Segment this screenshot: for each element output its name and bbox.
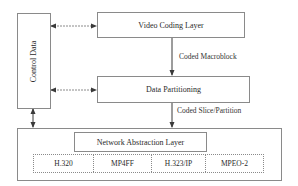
transport-mp4ff-label: MP4FF bbox=[111, 159, 134, 168]
coded-macroblock-label: Coded Macroblock bbox=[179, 52, 237, 61]
coded-slice-partition-label: Coded Slice/Partition bbox=[177, 106, 241, 115]
transport-mp4ff: MP4FF bbox=[93, 155, 151, 172]
network-abstraction-layer-box: Network Abstraction Layer bbox=[74, 132, 207, 152]
transport-mpeg2-label: MPEO-2 bbox=[221, 159, 248, 168]
transport-h323-ip: H.323/IP bbox=[151, 155, 205, 172]
control-data-box: Control Data bbox=[17, 13, 51, 109]
video-coding-layer-box: Video Coding Layer bbox=[97, 12, 245, 38]
transport-h320-label: H.320 bbox=[54, 159, 73, 168]
network-abstraction-layer-label: Network Abstraction Layer bbox=[97, 138, 185, 147]
transport-row: H.320 MP4FF H.323/IP MPEO-2 bbox=[33, 154, 264, 173]
control-data-label: Control Data bbox=[30, 40, 39, 82]
transport-h320: H.320 bbox=[34, 155, 93, 172]
transport-h323-ip-label: H.323/IP bbox=[165, 159, 192, 168]
data-partitioning-label: Data Partitioning bbox=[146, 85, 201, 94]
transport-mpeg2: MPEO-2 bbox=[205, 155, 263, 172]
data-partitioning-box: Data Partitioning bbox=[97, 76, 250, 103]
video-coding-layer-label: Video Coding Layer bbox=[138, 21, 203, 30]
